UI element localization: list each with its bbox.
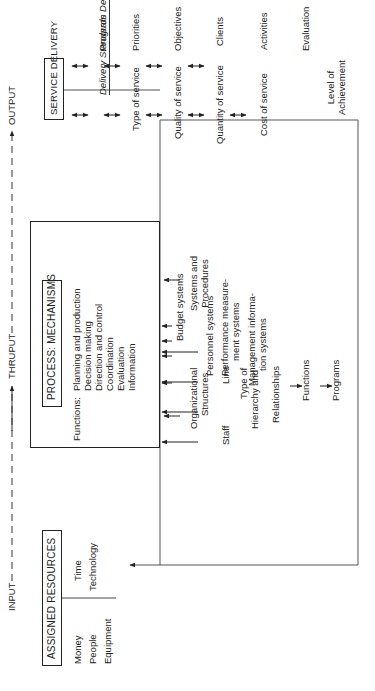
program-definition-item: Clients (214, 17, 225, 46)
delivery-standard-item: Quality of service (172, 66, 183, 139)
service-delivery-title: SERVICE DELIVERY (48, 21, 59, 115)
function-item: Decision making (82, 321, 93, 391)
program-definition-item: Priorities (130, 14, 141, 51)
resource-equipment: Equipment (102, 619, 113, 664)
system-item-performance: Performance measure- (219, 279, 230, 376)
process-title: PROCESS: MECHANISMS (46, 274, 57, 400)
resource-time: Time (72, 560, 83, 581)
program-definition-item: Evaluation (300, 7, 311, 51)
org-relationships: Relationships (270, 366, 281, 423)
program-definitions-heading: Program Definitions (97, 0, 108, 51)
system-item-performance-cont: ment systems (230, 302, 241, 361)
process-title-box: PROCESS: MECHANISMS (42, 280, 62, 407)
org-programs: Programs (330, 360, 341, 401)
function-item: Planning and production (71, 289, 82, 391)
function-item: Coordination (104, 337, 115, 391)
level-of-achievement-label: Level of Achievement (325, 60, 347, 115)
system-item-mis: Management informa- (246, 293, 257, 386)
program-definition-item: Objectives (172, 7, 183, 51)
resource-people: People (87, 634, 98, 664)
org-staff: Staff (220, 426, 231, 445)
thruput-label: THRUPUT (6, 334, 17, 379)
function-item: Information (126, 343, 137, 391)
system-item-budget: Budget systems (174, 273, 185, 341)
output-label: OUTPUT (6, 86, 17, 125)
assigned-resources-box: ASSIGNED RESOURCES (42, 530, 62, 666)
service-delivery-box: SERVICE DELIVERY (44, 58, 64, 120)
functions-label: Functions: (71, 397, 82, 441)
org-structures-title: Organizational Structures (188, 368, 210, 429)
org-functions: Functions (300, 360, 311, 401)
function-item: Evaluation (115, 347, 126, 391)
system-item-mis-cont: tion systems (257, 318, 268, 371)
diagram-canvas: INPUT THRUPUT OUTPUT ASSIGNED RESOURCES … (0, 0, 375, 691)
input-label: INPUT (6, 583, 17, 612)
resource-technology: Technology (87, 543, 98, 591)
program-definition-item: Activities (258, 13, 269, 50)
delivery-standard-item: Cost of service (258, 73, 269, 136)
system-item-personnel: Personnel systems (204, 296, 215, 376)
delivery-standard-item: Quantity of service (214, 65, 225, 144)
process-outer-box: PROCESS: MECHANISMS Functions: Planning … (30, 221, 160, 448)
function-item: Direction and control (93, 304, 104, 391)
resource-money: Money (72, 635, 83, 664)
assigned-resources-title: ASSIGNED RESOURCES (46, 538, 57, 659)
delivery-standard-item: Type of service (130, 67, 141, 131)
